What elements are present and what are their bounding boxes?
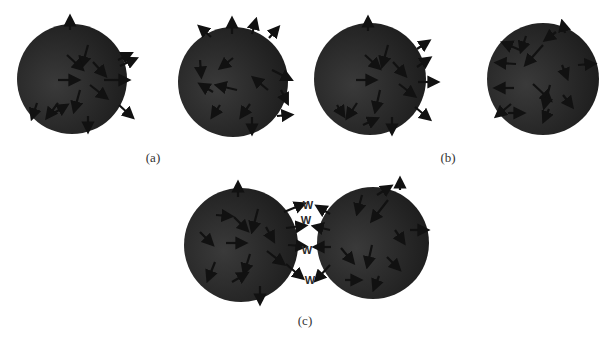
- sphere-c-2: [317, 182, 429, 299]
- sphere-b-1: [314, 21, 434, 135]
- exchange-arrow-icon: [284, 205, 301, 212]
- exchange-arrow-icon: [288, 245, 302, 246]
- spin-arrow-icon: [415, 107, 427, 117]
- spin-arrow-icon: [277, 115, 288, 116]
- w-label: W: [305, 274, 316, 286]
- spin-arrow-icon: [500, 63, 516, 64]
- w-label: W: [301, 214, 312, 226]
- panel-label-a: (a): [146, 150, 160, 166]
- panel-c: WWWW: [184, 182, 429, 302]
- sphere-a-2: [178, 22, 288, 137]
- panel-label-c: (c): [298, 313, 312, 329]
- diagram-canvas: WWWW: [0, 0, 609, 340]
- sphere-body: [184, 188, 298, 302]
- w-label: W: [303, 199, 314, 211]
- panel-label-b: (b): [440, 150, 455, 166]
- spin-arrow-icon: [119, 105, 130, 115]
- spin-arrow-icon: [269, 30, 276, 38]
- sphere-body: [317, 187, 429, 299]
- sphere-c-1: [184, 186, 298, 302]
- sphere-a-1: [17, 20, 133, 134]
- spin-arrow-icon: [200, 60, 201, 73]
- sphere-body: [487, 23, 599, 135]
- w-label: W: [302, 244, 313, 256]
- sphere-b-2: [487, 23, 599, 135]
- panel-b: [314, 21, 599, 135]
- spin-arrow-icon: [417, 43, 426, 49]
- spin-arrow-icon: [578, 64, 591, 65]
- sphere-diagram-figure: WWWW (a) (b) (c): [0, 0, 609, 340]
- spin-arrow-icon: [216, 215, 228, 216]
- panel-a: [17, 20, 288, 137]
- sphere-body: [178, 27, 288, 137]
